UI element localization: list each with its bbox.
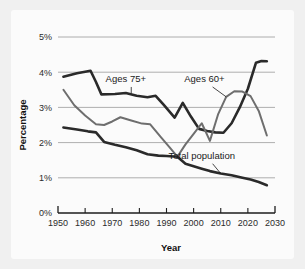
y-tick-label: 4% (39, 68, 52, 78)
x-tick-label: 2010 (211, 218, 231, 228)
x-tick-label: 1970 (102, 218, 122, 228)
x-tick-label: 1990 (156, 218, 176, 228)
y-tick-label: 2% (39, 138, 52, 148)
x-tick-labels-group: 195019601970198019902000201020202030 (48, 218, 285, 228)
y-axis-title: Percentage (17, 99, 28, 150)
line-chart: 0%1%2%3%4%5% 195019601970198019902000201… (11, 10, 294, 259)
x-tick-label: 2000 (184, 218, 204, 228)
series-label-total-population: Total population (168, 150, 235, 161)
page-root: 0%1%2%3%4%5% 195019601970198019902000201… (0, 0, 305, 269)
x-tick-label: 2020 (238, 218, 258, 228)
annotation-leader-line (213, 87, 227, 97)
data-series-group (63, 61, 266, 185)
x-tick-label: 1950 (48, 218, 68, 228)
y-tick-label: 0% (39, 208, 52, 218)
y-tick-label: 1% (39, 173, 52, 183)
y-tick-label: 5% (39, 32, 52, 42)
series-line-ages-60 (63, 90, 266, 157)
y-tick-labels-group: 0%1%2%3%4%5% (39, 32, 52, 218)
series-label-ages-60: Ages 60+ (184, 73, 225, 84)
tick-marks-group (85, 208, 248, 213)
y-tick-label: 3% (39, 103, 52, 113)
series-label-ages-75: Ages 75+ (106, 73, 147, 84)
x-tick-label: 1980 (129, 218, 149, 228)
series-line-total-population (63, 127, 266, 185)
x-axis-title: Year (161, 242, 181, 253)
x-tick-label: 1960 (75, 218, 95, 228)
x-tick-label: 2030 (265, 218, 285, 228)
chart-card: 0%1%2%3%4%5% 195019601970198019902000201… (11, 10, 294, 259)
